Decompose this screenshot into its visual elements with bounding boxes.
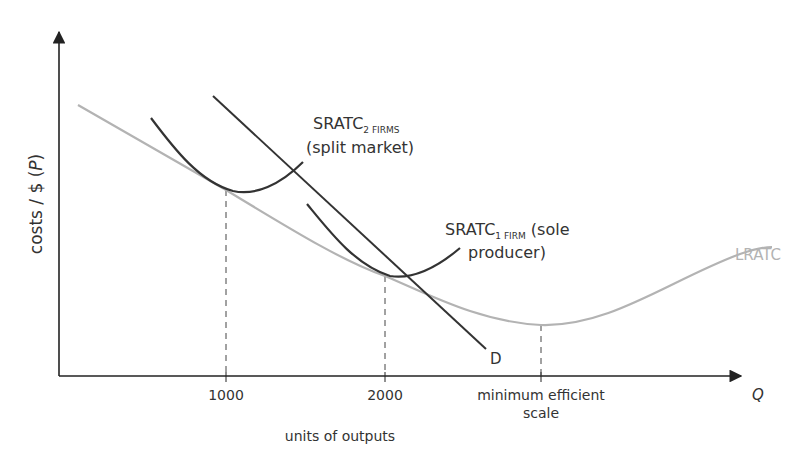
tick-label-1000: 1000: [208, 387, 244, 403]
sratc-2-firms-sublabel: (split market): [306, 138, 414, 157]
sratc-2-firms-curve: [151, 118, 303, 192]
cost-diagram: SRATC2 FIRMS (split market) SRATC1 FIRM …: [0, 0, 802, 464]
mes-label-line1: minimum efficient: [477, 387, 605, 403]
sratc-1-firm-label: SRATC1 FIRM (sole: [445, 220, 570, 241]
y-axis-label: costs / $ (P): [26, 154, 46, 254]
lratc-label: LRATC: [735, 246, 781, 264]
mes-label-line2: scale: [523, 405, 559, 421]
x-axis-label: units of outputs: [285, 428, 395, 444]
sratc-2-firms-label: SRATC2 FIRMS: [313, 114, 400, 135]
demand-label: D: [490, 350, 502, 368]
sratc-1-firm-curve: [307, 204, 460, 277]
tick-label-2000: 2000: [367, 387, 403, 403]
q-label: Q: [752, 386, 764, 404]
sratc-1-firm-sublabel: producer): [468, 243, 546, 262]
